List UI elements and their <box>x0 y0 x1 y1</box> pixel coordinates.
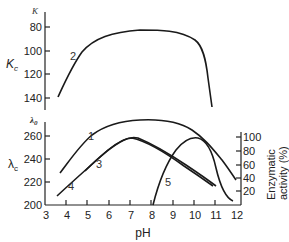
x-tick-8: 8 <box>149 209 155 221</box>
curve-2-label: 2 <box>70 50 76 62</box>
right-tick-100: 100 <box>243 131 261 143</box>
curve-4-label: 4 <box>68 180 74 192</box>
bottom-tick-260: 260 <box>24 130 42 142</box>
top-tick-80: 80 <box>30 21 42 33</box>
right-tick-20: 20 <box>243 185 255 197</box>
top-tick-100: 100 <box>24 45 42 57</box>
right-axis-label-2: activity (%) <box>277 146 289 200</box>
top-y-label: Kc <box>6 57 18 73</box>
x-tick-4: 4 <box>64 209 70 221</box>
bottom-panel: 260 240 220 200 λ0 λc 3 4 5 6 7 8 9 10 1… <box>8 115 289 240</box>
top-unit-label: K <box>31 6 39 16</box>
x-tick-9: 9 <box>170 209 176 221</box>
x-tick-7: 7 <box>128 209 134 221</box>
x-tick-3: 3 <box>43 209 49 221</box>
top-tick-140: 140 <box>24 92 42 104</box>
right-tick-40: 40 <box>243 172 255 184</box>
bottom-y-label: λc <box>8 157 18 173</box>
curve-1-label: 1 <box>88 130 94 142</box>
right-tick-80: 80 <box>243 145 255 157</box>
bottom-tick-240: 240 <box>24 153 42 165</box>
top-tick-120: 120 <box>24 68 42 80</box>
top-panel: 80 100 120 140 K Kc 2 <box>6 6 212 110</box>
x-tick-10: 10 <box>189 209 201 221</box>
right-tick-60: 60 <box>243 159 255 171</box>
bottom-tick-220: 220 <box>24 176 42 188</box>
x-tick-11: 11 <box>210 209 221 221</box>
curve-2 <box>58 30 212 107</box>
curve-5-label: 5 <box>165 176 171 188</box>
curve-3-label: 3 <box>96 158 102 170</box>
bottom-tick-200: 200 <box>24 199 42 211</box>
x-axis-label: pH <box>135 226 150 240</box>
x-tick-6: 6 <box>106 209 112 221</box>
x-tick-5: 5 <box>85 209 91 221</box>
chart-figure: 80 100 120 140 K Kc 2 260 240 220 200 λ0… <box>0 0 289 242</box>
right-axis-label-1: Enzymatic <box>265 149 277 200</box>
x-tick-12: 12 <box>231 209 243 221</box>
bottom-unit-label: λ0 <box>29 115 38 127</box>
